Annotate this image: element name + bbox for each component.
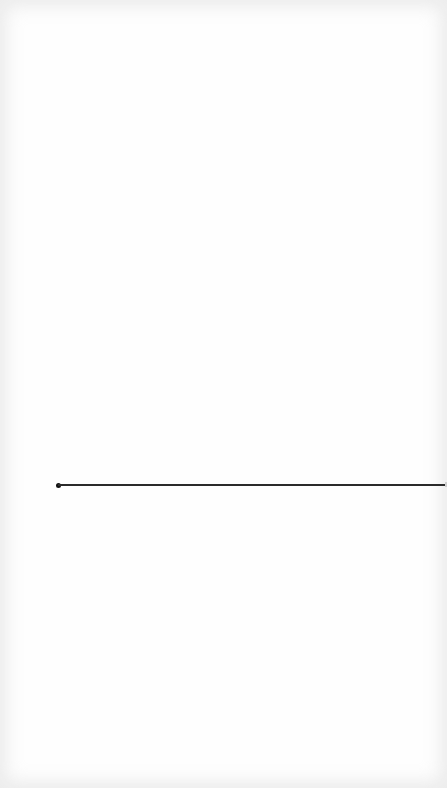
drawing-canvas[interactable] — [0, 0, 447, 788]
drawn-line[interactable] — [58, 484, 447, 486]
